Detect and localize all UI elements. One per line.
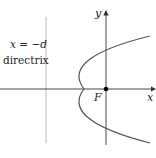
directrix-label: directrix — [3, 54, 49, 66]
y-axis-label: y — [94, 7, 102, 20]
focus-label: F — [93, 91, 102, 104]
directrix-equation: x = −d — [10, 38, 47, 50]
x-axis-label: x — [147, 91, 154, 104]
parabola-diagram: y x F x = −d directrix — [0, 0, 156, 158]
parabola-curve — [79, 36, 150, 143]
focus-point — [104, 87, 109, 92]
